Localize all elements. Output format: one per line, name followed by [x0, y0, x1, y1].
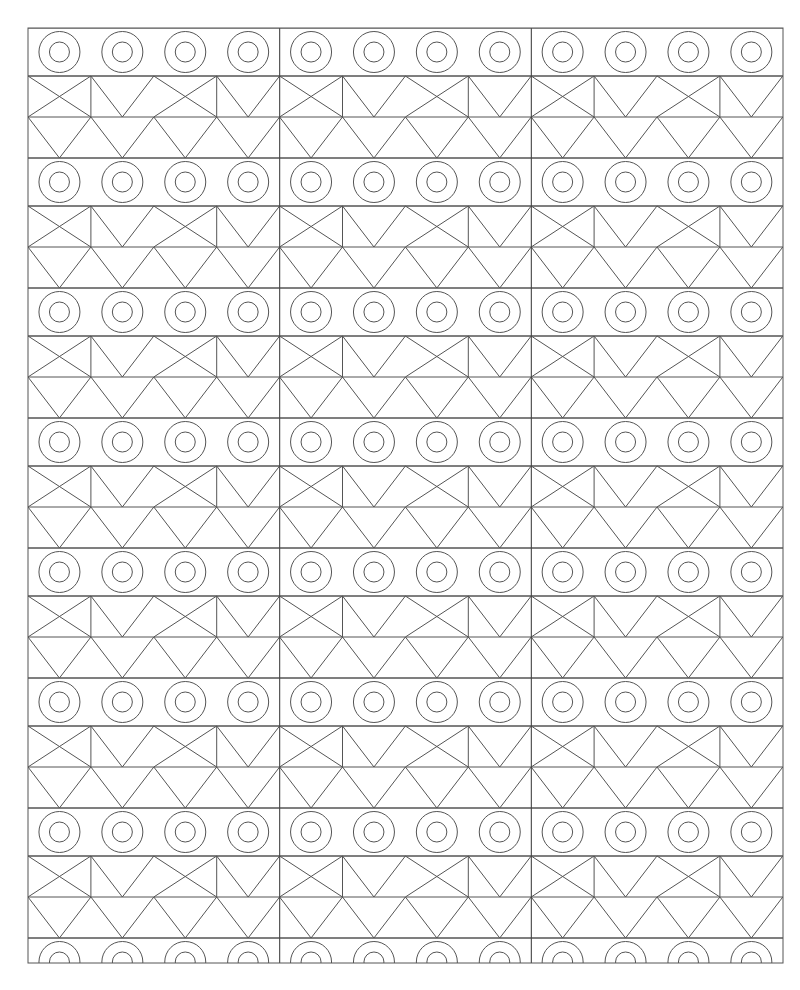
pattern-drawing: [0, 0, 800, 990]
pattern-canvas: [0, 0, 800, 990]
